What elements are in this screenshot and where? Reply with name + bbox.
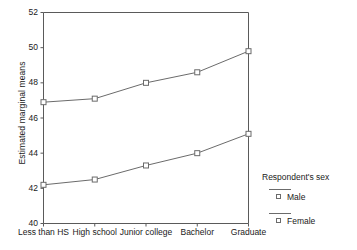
- chart-legend: Respondent's sex Male Female: [262, 172, 356, 231]
- legend-square-marker-male: [276, 194, 281, 199]
- data-point-marker-female[interactable]: [144, 163, 149, 168]
- legend-label-female: Female: [287, 217, 315, 226]
- legend-line-female: [269, 213, 291, 214]
- data-point-marker-male[interactable]: [41, 100, 46, 105]
- data-point-marker-female[interactable]: [195, 151, 200, 156]
- data-point-marker-male[interactable]: [92, 96, 97, 101]
- legend-square-marker-female: [276, 218, 281, 223]
- data-point-marker-female[interactable]: [41, 182, 46, 187]
- legend-label-male: Male: [287, 193, 305, 202]
- legend-line-male: [269, 189, 291, 190]
- data-point-marker-male[interactable]: [144, 80, 149, 85]
- series-line-female: [44, 134, 249, 185]
- legend-entry-female[interactable]: Female: [262, 207, 356, 231]
- data-point-marker-male[interactable]: [246, 49, 251, 54]
- data-point-marker-male[interactable]: [195, 70, 200, 75]
- data-point-marker-female[interactable]: [246, 131, 251, 136]
- series-line-male: [44, 51, 249, 102]
- data-point-marker-female[interactable]: [92, 177, 97, 182]
- legend-title: Respondent's sex: [262, 172, 356, 183]
- line-chart: Estimated marginal means 40424446485052 …: [0, 0, 357, 250]
- legend-entry-male[interactable]: Male: [262, 183, 356, 207]
